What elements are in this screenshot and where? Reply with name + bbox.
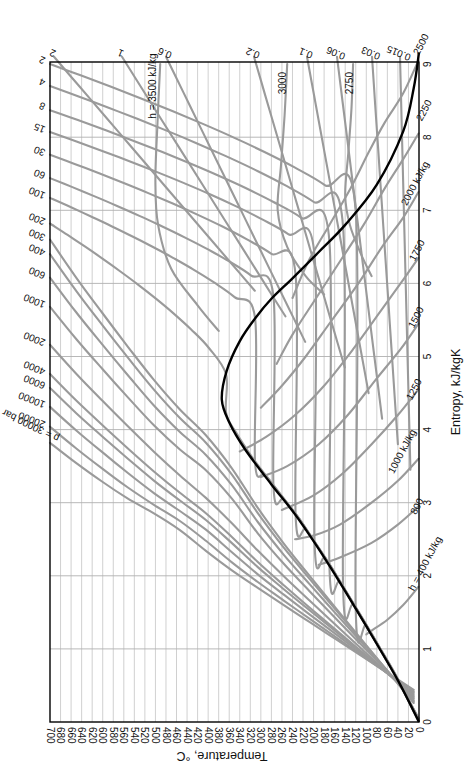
temperature-tick-label: 220 [298, 727, 309, 744]
isobar-label: 100 [27, 185, 47, 202]
temperature-tick-label: 400 [203, 727, 214, 744]
h2500-label: 2500 [411, 32, 431, 57]
isobar-6000-bar [50, 388, 414, 694]
h3000-label: 3000 [277, 72, 288, 95]
entropy-tick-label: 8 [422, 134, 433, 140]
isochore-label: 0.1 [297, 45, 314, 61]
isenthalp-800 [319, 506, 419, 564]
entropy-tick-label: 0 [422, 719, 433, 725]
temperature-tick-label: 40 [392, 727, 403, 739]
h400-label: h = 400 kJ/kg [406, 534, 444, 592]
h2750-label: 2750 [344, 72, 355, 95]
temperature-tick-label: 700 [45, 727, 56, 744]
entropy-tick-label: 4 [422, 426, 433, 432]
temperature-tick-label: 420 [192, 727, 203, 744]
isobar-label: 300 [27, 227, 47, 244]
temperature-tick-label: 80 [371, 727, 382, 739]
isochore-label: 0.2 [244, 45, 261, 61]
temperature-tick-label: 520 [139, 727, 150, 744]
entropy-tick-label: 5 [422, 353, 433, 359]
entropy-tick-labels: 0123456789 [422, 61, 433, 725]
temperature-tick-label: 180 [319, 727, 330, 744]
isobar-label: 2 [37, 54, 47, 66]
entropy-axis-title: Entropy, kJ/kgK [449, 348, 463, 435]
temperature-tick-label: 0 [414, 727, 425, 733]
temperature-tick-label: 340 [234, 727, 245, 744]
temperature-tick-label: 500 [150, 727, 161, 744]
h2250-label: 2250 [414, 98, 434, 123]
temperature-tick-label: 60 [382, 727, 393, 739]
isobar-label: 15 [32, 121, 47, 136]
temperature-tick-label: 660 [66, 727, 77, 744]
isobar-label: 4 [37, 76, 47, 88]
isenthalp-400 [366, 587, 418, 635]
h1750-label: 1750 [407, 238, 427, 263]
temperature-tick-label: 200 [308, 727, 319, 744]
h1500-label: 1500 [406, 305, 426, 330]
temperature-tick-label: 320 [245, 727, 256, 744]
temperature-tick-label: 580 [108, 727, 119, 744]
isobar-label: 1000 [22, 292, 47, 311]
temperature-tick-label: 560 [118, 727, 129, 744]
temperature-tick-label: 360 [224, 727, 235, 744]
entropy-tick-label: 6 [422, 280, 433, 286]
temperature-tick-label: 440 [182, 727, 193, 744]
temperature-tick-label: 160 [329, 727, 340, 744]
isobar-2000-bar [50, 345, 414, 697]
h1000-label: 1000 kJ/kg [386, 427, 418, 475]
isobar-label: 4000 [22, 359, 47, 378]
temperature-tick-label: 640 [76, 727, 87, 744]
temperature-tick-label: 480 [161, 727, 172, 744]
isobar-label: 200 [27, 211, 47, 228]
entropy-tick-label: 1 [422, 646, 433, 652]
temperature-tick-label: 600 [97, 727, 108, 744]
temperature-tick-label: 380 [213, 727, 224, 744]
isochore-labels: 210.60.20.10.060.030.015 [48, 43, 413, 63]
isochore-label: 0.06 [324, 44, 347, 62]
entropy-tick-label: 7 [422, 207, 433, 213]
temperature-tick-label: 460 [171, 727, 182, 744]
isobar-label: 600 [27, 265, 47, 282]
temperature-tick-label: 140 [340, 727, 351, 744]
ts-diagram: 0204060801001201401601802002202402602803… [0, 0, 472, 773]
temperature-tick-label: 100 [361, 727, 372, 744]
h1250-label: 1250 [404, 377, 424, 402]
entropy-tick-label: 9 [422, 61, 433, 67]
temperature-tick-label: 240 [287, 727, 298, 744]
h800-label: 800 [408, 496, 426, 516]
isobar-label: 60 [32, 167, 47, 182]
isenthalp-2750 [345, 64, 371, 276]
isobar-label: 10000 [16, 390, 46, 411]
isochore-label: 0.6 [156, 45, 173, 61]
temperature-tick-label: 300 [255, 727, 266, 744]
temperature-tick-label: 120 [350, 727, 361, 744]
temperature-tick-label: 620 [87, 727, 98, 744]
isochore-0.03 [372, 57, 398, 444]
temperature-tick-label: 280 [266, 727, 277, 744]
isobar-label: 8 [37, 100, 47, 112]
isochore-label: 0.03 [359, 44, 382, 62]
temperature-tick-label: 20 [403, 727, 414, 739]
isobar-label: 400 [27, 242, 47, 259]
temperature-tick-label: 680 [55, 727, 66, 744]
isobar-label: p = 30000 bar [0, 407, 61, 444]
isobar-400-bar [50, 254, 414, 701]
isobar-labels: 2481530601002003004006001000200040006000… [0, 54, 61, 444]
h3500-label: h = 3500 kJ/kg [147, 53, 158, 118]
temperature-tick-label: 540 [129, 727, 140, 744]
isobar-label: 30 [32, 144, 47, 159]
isochore-label: 0.015 [385, 43, 413, 63]
isobar-30-bar [50, 155, 419, 720]
temperature-tick-label: 260 [276, 727, 287, 744]
temperature-axis-title: Temperature, °C [176, 749, 267, 763]
isochore-label: 1 [116, 47, 126, 59]
temperature-tick-labels: 0204060801001201401601802002202402602803… [45, 727, 425, 744]
isobar-label: 2000 [22, 330, 47, 349]
